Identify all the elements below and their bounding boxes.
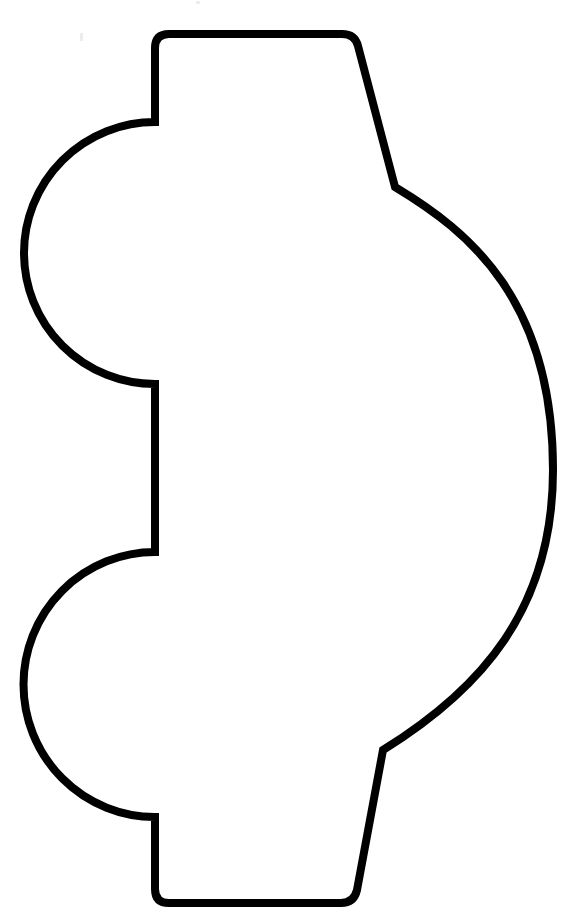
car-outline-drawing xyxy=(0,0,569,919)
scan-artifact-mark xyxy=(80,33,83,41)
car-outline-path xyxy=(24,34,553,903)
coloring-page xyxy=(0,0,569,919)
scan-artifact-mark xyxy=(196,1,200,4)
